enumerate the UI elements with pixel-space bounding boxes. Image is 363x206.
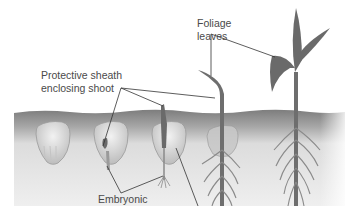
label-line: leaves bbox=[197, 30, 231, 43]
label-line: Protective sheath bbox=[41, 69, 122, 82]
label-embryonic: Embryonic bbox=[98, 193, 148, 206]
label-foliage-leaves: Foliage leaves bbox=[197, 17, 231, 43]
germination-diagram: Protective sheath enclosing shoot Foliag… bbox=[0, 0, 363, 206]
label-line: Embryonic bbox=[98, 193, 148, 205]
label-line: enclosing shoot bbox=[41, 82, 122, 95]
label-protective-sheath: Protective sheath enclosing shoot bbox=[41, 69, 122, 95]
label-line: Foliage bbox=[197, 17, 231, 30]
diagram-artwork bbox=[0, 0, 363, 206]
